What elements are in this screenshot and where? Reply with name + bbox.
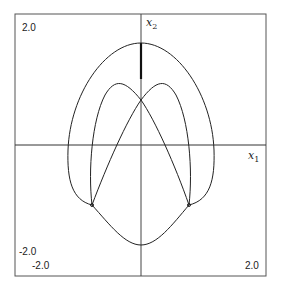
y-axis-label: x2	[146, 16, 157, 31]
x-min-label: -2.0	[32, 260, 49, 271]
y-min-label: -2.0	[19, 246, 36, 257]
y-max-label: 2.0	[22, 22, 36, 33]
phase-plot	[0, 0, 282, 292]
x-max-label: 2.0	[245, 260, 259, 271]
x-axis-label: x1	[248, 149, 259, 164]
